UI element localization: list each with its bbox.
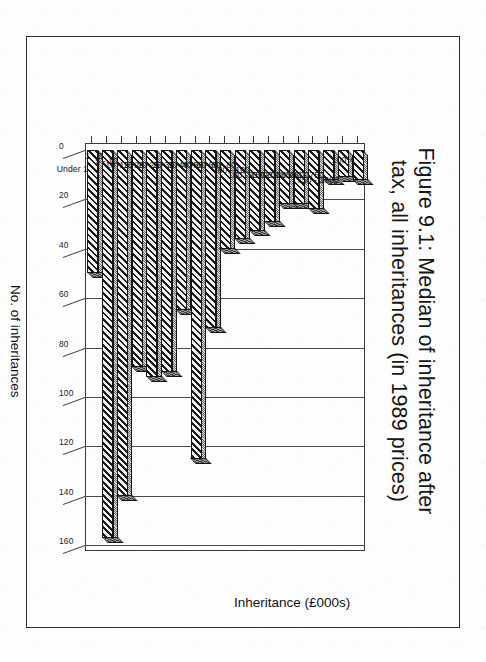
- category-tick: [224, 136, 225, 143]
- bar: [117, 150, 128, 496]
- value-tick-leader: [63, 249, 85, 258]
- bar-face: [205, 150, 216, 328]
- bar: [102, 150, 113, 538]
- category-tick: [253, 136, 254, 143]
- bar: [176, 150, 187, 310]
- category-tick: [283, 136, 284, 143]
- category-tick: [106, 136, 107, 143]
- category-axis-title: Inheritance (£000s): [234, 595, 350, 610]
- bar-face: [87, 150, 98, 273]
- value-tick-leader: [63, 298, 85, 307]
- value-label: 80: [59, 339, 69, 349]
- bar-face: [353, 150, 364, 180]
- bar: [191, 150, 202, 459]
- rotated-chart-container: Figure 9.1: Median of inheritance after …: [43, 51, 443, 611]
- bar-face: [264, 150, 275, 222]
- value-tick-leader: [63, 545, 85, 554]
- value-label: 100: [59, 388, 74, 398]
- bar-face: [161, 150, 172, 372]
- value-tick-leader: [63, 397, 85, 406]
- value-label: 140: [59, 487, 74, 497]
- bar: [249, 150, 260, 231]
- bar-face: [102, 150, 113, 538]
- value-tick-leader: [63, 199, 85, 208]
- bar: [353, 150, 364, 180]
- bar: [146, 150, 157, 377]
- category-tick: [342, 136, 343, 143]
- category-tick: [357, 136, 358, 143]
- bar: [132, 150, 143, 367]
- value-tick-leader: [63, 150, 85, 159]
- scanned-page: Figure 9.1: Median of inheritance after …: [0, 0, 486, 662]
- category-tick: [327, 136, 328, 143]
- bar-face: [146, 150, 157, 377]
- bar: [235, 150, 246, 239]
- bar: [264, 150, 275, 222]
- bar-end-face: [353, 179, 374, 185]
- value-label: 60: [59, 289, 69, 299]
- value-label: 0: [59, 141, 64, 151]
- category-tick: [195, 136, 196, 143]
- value-label: 20: [59, 190, 69, 200]
- plot-area: 020406080100120140160 Under 11 - 55 - 10…: [85, 143, 365, 551]
- category-tick: [298, 136, 299, 143]
- category-tick: [136, 136, 137, 143]
- value-label: 120: [59, 437, 74, 447]
- figure-title-line-1: Figure 9.1: Median of inheritance after: [412, 51, 439, 611]
- bar: [161, 150, 172, 372]
- category-label: 750 - 1000: [297, 175, 339, 185]
- category-tick: [150, 136, 151, 143]
- category-tick: [239, 136, 240, 143]
- category-tick: [165, 136, 166, 143]
- category-tick: [180, 136, 181, 143]
- value-tick-leader: [63, 446, 85, 455]
- bar-face: [191, 150, 202, 459]
- bar: [87, 150, 98, 273]
- bar-face: [132, 150, 143, 367]
- value-axis-title: No. of inheritances: [8, 285, 23, 398]
- category-tick: [121, 136, 122, 143]
- value-label: 160: [59, 536, 74, 546]
- figure-title-line-2: tax, all inheritances (in 1989 prices): [385, 51, 412, 611]
- category-tick: [268, 136, 269, 143]
- bar-face: [249, 150, 260, 231]
- category-tick: [312, 136, 313, 143]
- category-label: Under 1: [57, 164, 88, 174]
- category-label: 100 +: [331, 155, 353, 165]
- bar: [205, 150, 216, 328]
- gridline: [85, 545, 365, 546]
- figure-title: Figure 9.1: Median of inheritance after …: [385, 51, 439, 611]
- value-label: 40: [59, 240, 69, 250]
- category-tick: [209, 136, 210, 143]
- category-tick: [91, 136, 92, 143]
